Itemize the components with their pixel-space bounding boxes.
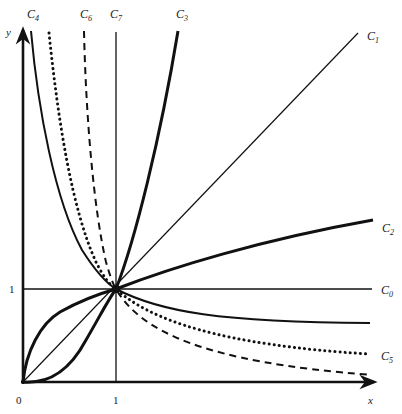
curve-label-c4: C4: [27, 7, 39, 23]
curve-label-c2: C2: [382, 221, 394, 237]
curve-c3: [23, 31, 178, 382]
curve-label-c6: C6: [80, 7, 92, 23]
x-axis-label: x: [367, 394, 373, 406]
y-axis-label: y: [5, 26, 11, 38]
x-tick-label: 1: [113, 394, 119, 406]
svg-text:C3: C3: [176, 7, 188, 23]
curve-label-c5: C5: [381, 349, 393, 365]
intersection-point: [112, 285, 120, 293]
curve-label-c3: C3: [176, 7, 188, 23]
y-tick-label: 1: [9, 283, 15, 295]
svg-text:C2: C2: [382, 221, 394, 237]
svg-text:C0: C0: [381, 283, 393, 299]
curve-label-c1: C1: [367, 29, 379, 45]
origin-label: 0: [16, 394, 22, 406]
svg-text:C5: C5: [381, 349, 393, 365]
svg-text:C7: C7: [110, 7, 123, 23]
power-curves-diagram: y x 0 1 1 C4 C6 C7 C3 C1 C2 C0 C5: [0, 0, 402, 414]
curve-label-c0: C0: [381, 283, 393, 299]
curve-label-c7: C7: [110, 7, 123, 23]
svg-text:C1: C1: [367, 29, 379, 45]
svg-text:C6: C6: [80, 7, 92, 23]
curve-c5: [49, 33, 369, 354]
svg-text:C4: C4: [27, 7, 39, 23]
curve-c1: [23, 33, 358, 382]
curve-c4: [31, 31, 370, 323]
